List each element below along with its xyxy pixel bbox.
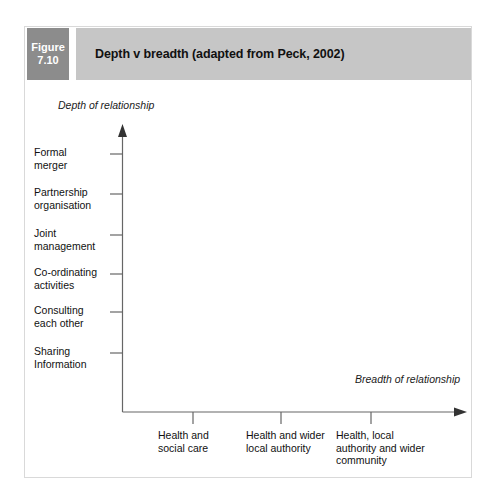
- figure-title: Depth v breadth (adapted from Peck, 2002…: [76, 47, 344, 61]
- y-tick-label-line1: Joint: [34, 227, 116, 240]
- figure-container: Figure 7.10 Depth v breadth (adapted fro…: [0, 0, 496, 501]
- y-tick-label-line2: Information: [34, 358, 116, 371]
- x-tick-label-line1: Health, local: [336, 429, 428, 442]
- y-tick-label-partnership-organisation: Partnership organisation: [34, 186, 116, 211]
- y-tick-label-line1: Co-ordinating: [34, 266, 116, 279]
- y-tick-label-line2: management: [34, 240, 116, 253]
- figure-titlebar: Depth v breadth (adapted from Peck, 2002…: [76, 28, 471, 80]
- y-tick-label-line2: activities: [34, 279, 116, 292]
- y-tick-label-line1: Partnership: [34, 186, 116, 199]
- y-axis-arrowhead: [118, 124, 127, 137]
- figure-number-line2: 7.10: [37, 54, 58, 67]
- x-axis-arrowhead: [454, 408, 467, 417]
- plot-area: Depth of relationship Breadth of relatio…: [25, 82, 471, 477]
- y-tick-label-line1: Consulting: [34, 304, 116, 317]
- y-tick-label-joint-management: Joint management: [34, 227, 116, 252]
- x-tick-label-line2: local authority: [246, 442, 338, 455]
- x-tick-label-line2: authority and wider: [336, 442, 428, 455]
- x-tick-label-health-local-authority-and-wider-community: Health, local authority and wider commun…: [336, 429, 428, 467]
- y-tick-label-line2: merger: [34, 159, 116, 172]
- y-tick-label-line2: each other: [34, 317, 116, 330]
- y-tick-label-line2: organisation: [34, 199, 116, 212]
- x-tick-label-line1: Health and: [158, 429, 250, 442]
- y-tick-label-line1: Sharing: [34, 345, 116, 358]
- x-tick-label-health-and-wider-local-authority: Health and wider local authority: [246, 429, 338, 454]
- y-tick-label-sharing-information: Sharing Information: [34, 345, 116, 370]
- figure-number-line1: Figure: [31, 41, 65, 54]
- y-tick-label-consulting-each-other: Consulting each other: [34, 304, 116, 329]
- y-tick-label-co-ordinating-activities: Co-ordinating activities: [34, 266, 116, 291]
- x-tick-label-line2: social care: [158, 442, 250, 455]
- y-tick-label-formal-merger: Formal merger: [34, 146, 116, 171]
- figure-number-badge: Figure 7.10: [27, 28, 69, 80]
- y-tick-label-line1: Formal: [34, 146, 116, 159]
- x-tick-label-line3: community: [336, 454, 428, 467]
- x-tick-label-line1: Health and wider: [246, 429, 338, 442]
- x-axis-ticks: [193, 412, 371, 424]
- x-tick-label-health-and-social-care: Health and social care: [158, 429, 250, 454]
